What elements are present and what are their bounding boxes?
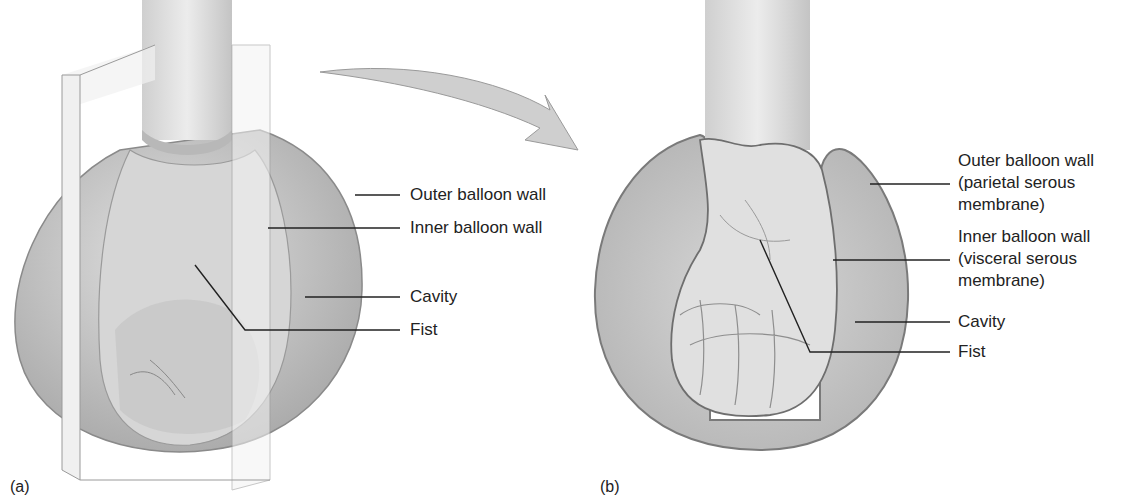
label-cavity-a: Cavity: [410, 286, 457, 307]
label-parietal-line1: (parietal serous: [958, 172, 1075, 193]
label-inner-balloon-wall-b: Inner balloon wall: [958, 226, 1090, 247]
panel-tag-b: (b): [600, 478, 620, 496]
label-fist-b: Fist: [958, 341, 985, 362]
label-outer-balloon-wall-a: Outer balloon wall: [410, 184, 546, 205]
label-fist-a: Fist: [410, 319, 437, 340]
panel-b-illustration: [595, 0, 950, 450]
label-visceral-line1: (visceral serous: [958, 248, 1077, 269]
panel-tag-a: (a): [10, 478, 30, 496]
label-cavity-b: Cavity: [958, 311, 1005, 332]
label-outer-balloon-wall-b: Outer balloon wall: [958, 150, 1094, 171]
label-parietal-line2: membrane): [958, 194, 1045, 215]
label-visceral-line2: membrane): [958, 270, 1045, 291]
transition-arrow: [320, 68, 578, 150]
label-inner-balloon-wall-a: Inner balloon wall: [410, 217, 542, 238]
